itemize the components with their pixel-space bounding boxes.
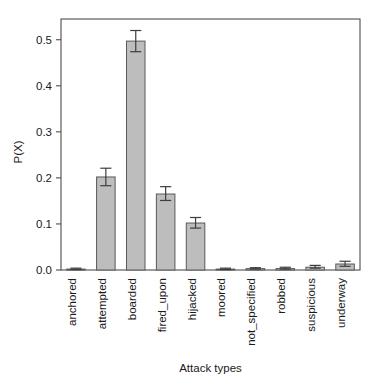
x-category-label-attempted: attempted bbox=[96, 278, 108, 329]
y-tick-label: 0.3 bbox=[36, 126, 52, 138]
x-category-label-suspicious: suspicious bbox=[305, 278, 317, 332]
y-tick-label: 0.1 bbox=[36, 218, 52, 230]
bar-hijacked bbox=[186, 223, 205, 270]
bar-boarded bbox=[126, 41, 145, 270]
chart-background bbox=[0, 0, 379, 386]
y-tick-label: 0.0 bbox=[36, 264, 52, 276]
x-category-label-hijacked: hijacked bbox=[186, 278, 198, 320]
x-category-label-underway: underway bbox=[335, 278, 347, 328]
bar-chart: 0.00.10.20.30.40.5 anchoredattemptedboar… bbox=[0, 0, 379, 386]
x-category-label-moored: moored bbox=[215, 278, 227, 317]
y-axis-title: P(X) bbox=[12, 140, 24, 163]
y-tick-label: 0.4 bbox=[36, 80, 53, 92]
x-category-label-fired_upon: fired_upon bbox=[156, 278, 168, 332]
x-category-label-robbed: robbed bbox=[275, 278, 287, 314]
bar-fired_upon bbox=[156, 194, 175, 270]
x-axis-title: Attack types bbox=[179, 362, 242, 374]
x-category-label-boarded: boarded bbox=[126, 278, 138, 320]
x-category-label-not_specified: not_specified bbox=[245, 278, 257, 346]
x-category-label-anchored: anchored bbox=[66, 278, 78, 326]
bar-attempted bbox=[97, 177, 116, 270]
y-tick-label: 0.2 bbox=[36, 172, 52, 184]
y-tick-label: 0.5 bbox=[36, 34, 52, 46]
chart-canvas: 0.00.10.20.30.40.5 anchoredattemptedboar… bbox=[0, 0, 379, 386]
